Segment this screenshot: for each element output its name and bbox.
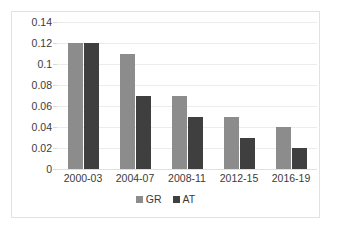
bar-group xyxy=(161,22,213,169)
x-axis-tick-label: 2008-11 xyxy=(161,172,213,184)
y-axis-tick-mark xyxy=(53,64,57,65)
plot-area xyxy=(57,22,317,169)
bar-group xyxy=(109,22,161,169)
bar-group xyxy=(57,22,109,169)
y-axis-tick-mark xyxy=(53,169,57,170)
y-axis: 0.140.120.10.080.060.040.020 xyxy=(16,22,52,169)
y-axis-tick-label: 0.08 xyxy=(16,80,52,91)
y-axis-tick-label: 0.02 xyxy=(16,143,52,154)
y-axis-tick-label: 0.06 xyxy=(16,101,52,112)
chart-legend: GRAT xyxy=(12,194,319,205)
plot-region: 0.140.120.10.080.060.040.020 2000-032004… xyxy=(12,12,319,217)
bar-gr[interactable] xyxy=(68,43,83,169)
x-axis-tick-label: 2004-07 xyxy=(109,172,161,184)
bar-at[interactable] xyxy=(292,148,307,169)
chart-container: 0.140.120.10.080.060.040.020 2000-032004… xyxy=(11,11,320,218)
y-axis-tick-label: 0 xyxy=(16,164,52,175)
y-axis-tick-mark xyxy=(53,106,57,107)
y-axis-tick-label: 0.04 xyxy=(16,122,52,133)
y-axis-tick-mark xyxy=(53,148,57,149)
axis-baseline xyxy=(57,169,317,170)
y-axis-tick-mark xyxy=(53,127,57,128)
legend-label: GR xyxy=(146,194,162,205)
y-axis-tick-mark xyxy=(53,43,57,44)
legend-item-at[interactable]: AT xyxy=(173,194,196,205)
y-axis-tick-mark xyxy=(53,85,57,86)
bar-at[interactable] xyxy=(240,138,255,170)
bar-at[interactable] xyxy=(84,43,99,169)
legend-swatch-icon xyxy=(136,196,143,203)
bar-gr[interactable] xyxy=(120,54,135,170)
y-axis-tick-mark xyxy=(53,22,57,23)
bar-group xyxy=(213,22,265,169)
bar-series-group xyxy=(57,22,317,169)
y-axis-tick-label: 0.12 xyxy=(16,38,52,49)
x-axis-tick-label: 2000-03 xyxy=(57,172,109,184)
bar-group xyxy=(265,22,317,169)
bar-gr[interactable] xyxy=(172,96,187,170)
bar-at[interactable] xyxy=(136,96,151,170)
x-axis: 2000-032004-072008-112012-152016-19 xyxy=(57,172,317,184)
legend-swatch-icon xyxy=(173,196,180,203)
y-axis-tick-label: 0.1 xyxy=(16,59,52,70)
legend-label: AT xyxy=(183,194,196,205)
bar-gr[interactable] xyxy=(224,117,239,170)
bar-at[interactable] xyxy=(188,117,203,170)
x-axis-tick-label: 2016-19 xyxy=(265,172,317,184)
bar-gr[interactable] xyxy=(276,127,291,169)
x-axis-tick-label: 2012-15 xyxy=(213,172,265,184)
legend-item-gr[interactable]: GR xyxy=(136,194,162,205)
y-axis-tick-label: 0.14 xyxy=(16,17,52,28)
